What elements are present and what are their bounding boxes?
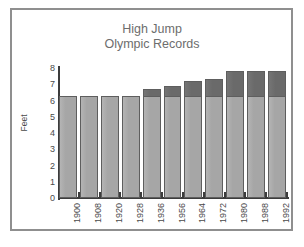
bar-segment-increment[interactable]: [205, 79, 223, 96]
y-axis-tick-label: 7: [40, 80, 55, 89]
chart-title-line-2: Olympic Records: [0, 37, 304, 52]
x-axis-tick-mark: [161, 192, 163, 198]
x-axis-tick-label: 1936: [157, 203, 166, 237]
y-axis-tick-label: 2: [40, 161, 55, 170]
chart-title: High Jump Olympic Records: [0, 22, 304, 52]
y-axis-tick-label: 5: [40, 112, 55, 121]
bar-segment-base[interactable]: [184, 96, 202, 198]
bar-segment-base[interactable]: [143, 96, 161, 198]
x-axis-tick-label: 1908: [94, 203, 103, 237]
x-axis-tick-label: 1992: [282, 203, 291, 237]
x-axis-tick-mark: [286, 192, 288, 198]
bar-segment-base[interactable]: [164, 96, 182, 198]
x-axis-tick-mark: [119, 192, 121, 198]
chart-figure: High Jump Olympic Records 012345678 Feet…: [0, 0, 304, 247]
y-axis-tick-labels: 012345678: [40, 68, 55, 198]
bar-segment-increment[interactable]: [164, 86, 182, 97]
y-axis-tick-label: 0: [40, 194, 55, 203]
bar-segment-increment[interactable]: [143, 89, 161, 97]
bar-segment-increment[interactable]: [247, 71, 265, 96]
x-axis-tick-mark: [78, 192, 80, 198]
x-axis-tick-label: 1964: [198, 203, 207, 237]
bar-segment-increment[interactable]: [268, 71, 286, 96]
bar-group[interactable]: [80, 68, 98, 198]
bar-segment-base[interactable]: [101, 96, 119, 198]
bar-group[interactable]: [205, 68, 223, 198]
x-axis-tick-mark: [203, 192, 205, 198]
bar-segment-base[interactable]: [226, 96, 244, 198]
bar-group[interactable]: [101, 68, 119, 198]
chart-title-line-1: High Jump: [0, 22, 304, 37]
bar-segment-base[interactable]: [122, 96, 140, 198]
plot-area: [58, 68, 287, 198]
x-axis-tick-label: 1988: [261, 203, 270, 237]
x-axis-tick-label: 1972: [219, 203, 228, 237]
x-axis-tick-mark: [265, 192, 267, 198]
x-axis-tick-label: 1900: [73, 203, 82, 237]
x-axis-tick-label: 1956: [178, 203, 187, 237]
x-axis-tick-label: 1920: [115, 203, 124, 237]
bar-segment-base[interactable]: [247, 96, 265, 198]
bar-segment-increment[interactable]: [226, 71, 244, 96]
x-axis-tick-mark: [244, 192, 246, 198]
bar-segment-base[interactable]: [268, 96, 286, 198]
x-axis-tick-label: 1928: [136, 203, 145, 237]
bar-group[interactable]: [164, 68, 182, 198]
x-axis-tick-mark: [224, 192, 226, 198]
bar-segment-base[interactable]: [59, 96, 77, 198]
bar-group[interactable]: [143, 68, 161, 198]
bar-group[interactable]: [122, 68, 140, 198]
bar-group[interactable]: [59, 68, 77, 198]
y-axis-tick-label: 1: [40, 177, 55, 186]
y-axis-tick-label: 8: [40, 64, 55, 73]
y-axis-tick-label: 6: [40, 96, 55, 105]
x-axis-tick-label: 1980: [240, 203, 249, 237]
x-axis-tick-mark: [140, 192, 142, 198]
bar-segment-increment[interactable]: [184, 81, 202, 97]
bar-group[interactable]: [226, 68, 244, 198]
x-axis-tick-mark: [182, 192, 184, 198]
bar-group[interactable]: [184, 68, 202, 198]
y-axis-tick-label: 3: [40, 145, 55, 154]
y-axis-tick-label: 4: [40, 129, 55, 138]
x-axis-tick-mark: [99, 192, 101, 198]
bar-group[interactable]: [268, 68, 286, 198]
y-axis-title: Feet: [19, 93, 29, 153]
bar-group[interactable]: [247, 68, 265, 198]
bar-segment-base[interactable]: [205, 96, 223, 198]
bar-segment-base[interactable]: [80, 96, 98, 198]
